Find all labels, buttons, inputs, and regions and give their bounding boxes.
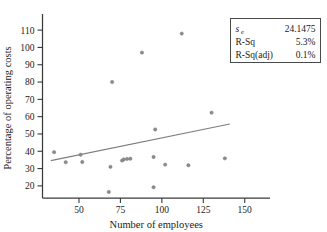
data-point: [64, 160, 67, 163]
x-tick-label: 150: [238, 205, 253, 215]
data-point: [152, 186, 155, 189]
data-point: [180, 32, 183, 35]
data-point: [210, 111, 213, 114]
legend-row-value: 0.1%: [296, 50, 316, 60]
plot-canvas: 2030405060708090100110 5075100125150 Num…: [0, 0, 327, 232]
data-point: [163, 163, 166, 166]
data-point: [152, 155, 155, 158]
x-tick-label: 100: [155, 205, 170, 215]
data-point: [187, 164, 190, 167]
x-tick-label: 50: [74, 205, 84, 215]
y-tick-label: 110: [21, 26, 35, 36]
x-axis-title: Number of employees: [110, 219, 203, 230]
data-point: [110, 80, 113, 83]
x-tick-label: 125: [196, 205, 211, 215]
legend-row-value: 5.3%: [296, 37, 316, 47]
legend-row-label: R-Sq: [236, 37, 256, 47]
data-point: [107, 190, 110, 193]
y-tick-label: 20: [25, 181, 35, 191]
y-axis-title: Percentage of operating costs: [2, 46, 13, 169]
data-point: [154, 128, 157, 131]
scatterplot-figure: 2030405060708090100110 5075100125150 Num…: [0, 0, 327, 232]
y-tick-label: 50: [25, 129, 35, 139]
data-point: [52, 150, 55, 153]
data-point: [122, 158, 125, 161]
y-tick-label: 80: [25, 77, 35, 87]
y-tick-label: 40: [25, 147, 35, 157]
legend-row-subscript: e: [241, 28, 244, 35]
data-point: [109, 165, 112, 168]
data-point: [125, 157, 128, 160]
legend-row-label: s: [236, 24, 240, 34]
data-point: [79, 153, 82, 156]
data-point: [81, 160, 84, 163]
y-axis-ticks: 2030405060708090100110: [20, 26, 42, 192]
statistics-legend: se24.1475R-Sq5.3%R-Sq(adj)0.1%: [231, 19, 321, 63]
data-point: [140, 51, 143, 54]
y-tick-label: 90: [25, 60, 35, 70]
y-tick-label: 30: [25, 164, 35, 174]
fit-line-segment: [51, 124, 230, 161]
legend-row-label: R-Sq(adj): [236, 50, 273, 61]
y-tick-label: 70: [25, 95, 35, 105]
x-tick-label: 75: [116, 205, 126, 215]
data-points: [52, 32, 226, 194]
y-tick-label: 100: [20, 43, 35, 53]
data-point: [223, 157, 226, 160]
legend-row-value: 24.1475: [285, 24, 316, 34]
regression-line: [51, 124, 230, 161]
y-tick-label: 60: [25, 112, 35, 122]
x-axis-ticks: 5075100125150: [74, 198, 252, 215]
data-point: [129, 157, 132, 160]
